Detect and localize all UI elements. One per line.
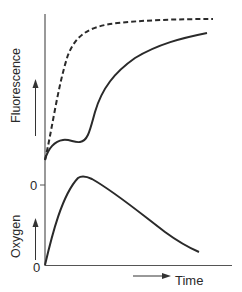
- time-right-arrow-icon: [133, 273, 171, 279]
- time-label: Time: [175, 273, 203, 288]
- chart: 0 0 Fluorescence Oxygen Time: [0, 0, 242, 292]
- fluorescence-up-arrow-icon: [33, 79, 39, 136]
- oxygen-curve: [45, 176, 199, 265]
- oxygen-up-arrow-icon: [33, 218, 39, 260]
- fluorescence-solid-curve: [45, 33, 207, 160]
- zero-label-lower: 0: [33, 260, 40, 275]
- oxygen-label: Oxygen: [9, 215, 23, 258]
- fluorescence-label: Fluorescence: [9, 48, 23, 123]
- fluorescence-dashed-curve: [45, 19, 213, 160]
- zero-label-upper: 0: [30, 178, 37, 193]
